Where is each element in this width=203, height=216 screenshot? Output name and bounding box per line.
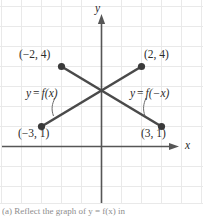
curve-label-f-of-x-argument: (x): [45, 87, 58, 99]
x-axis-label: x: [185, 140, 190, 152]
curve-label-f-of-negative-x-equals: =: [137, 87, 144, 99]
point-label-lower-right: (3, 1): [141, 128, 166, 140]
curve-label-f-of-negative-x: y=f(−x): [130, 88, 169, 100]
graph-figure: (−2, 4) (2, 4) (−3, 1) (3, 1) y=f(x) y=f…: [0, 0, 203, 216]
curve-label-f-of-negative-x-argument: (−x): [149, 87, 170, 99]
curve-label-f-of-negative-x-lhs: y: [130, 87, 135, 99]
curve-label-f-of-x-lhs: y: [26, 87, 31, 99]
point-marker-2-4: [138, 63, 145, 70]
point-label-upper-left: (−2, 4): [19, 49, 50, 61]
point-label-lower-left: (−3, 1): [18, 128, 49, 140]
coordinate-plane-graphic: [0, 0, 203, 216]
figure-caption: (a) Reflect the graph of y = f(x) in: [2, 206, 202, 216]
point-marker-neg2-4: [58, 63, 65, 70]
x-axis-arrowhead: [169, 143, 179, 150]
y-axis-arrowhead: [98, 14, 105, 24]
curve-label-f-of-x-equals: =: [33, 87, 40, 99]
y-axis-label: y: [95, 3, 100, 15]
curve-label-f-of-x: y=f(x): [26, 88, 58, 100]
point-label-upper-right: (2, 4): [144, 49, 169, 61]
